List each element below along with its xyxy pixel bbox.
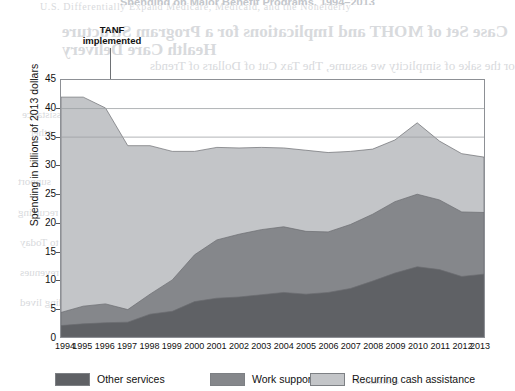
y-axis-tick-20: 20	[34, 217, 56, 228]
y-axis-tick-15: 15	[34, 246, 56, 257]
y-axis-tick-mark-30	[56, 165, 60, 166]
y-axis-tick-35: 35	[34, 131, 56, 142]
y-axis-tick-mark-40	[56, 108, 60, 109]
x-axis-tick-2006: 2006	[316, 341, 340, 351]
x-axis-tick-2011: 2011	[428, 341, 452, 351]
legend-swatch-icon	[310, 373, 345, 386]
area-series-canvas	[61, 80, 484, 337]
x-axis-tick-labels: 1994199519961997199819992000200120022003…	[0, 341, 495, 355]
x-axis-tick-1995: 1995	[70, 341, 94, 351]
x-axis-tick-2002: 2002	[227, 341, 251, 351]
tanf-annotation: TANF implemented	[60, 24, 164, 46]
legend-swatch-icon	[55, 373, 90, 386]
x-axis-tick-2004: 2004	[272, 341, 296, 351]
legend-label: Work support	[252, 373, 314, 385]
y-axis-tick-mark-5	[56, 309, 60, 310]
chart-legend: Other servicesWork supportRecurring cash…	[0, 370, 495, 388]
legend-item-other-services[interactable]: Other services	[55, 373, 165, 386]
x-axis-tick-2013: 2013	[468, 341, 492, 351]
x-axis-tick-2000: 2000	[182, 341, 206, 351]
tanf-annotation-line2: implemented	[60, 35, 164, 46]
legend-item-recurring-cash-assistance[interactable]: Recurring cash assistance	[310, 373, 475, 386]
legend-item-work-support[interactable]: Work support	[210, 373, 314, 386]
x-axis-tick-2001: 2001	[205, 341, 229, 351]
y-axis-tick-45: 45	[34, 73, 56, 84]
tanf-annotation-line1: TANF	[60, 24, 164, 35]
x-axis-tick-2010: 2010	[406, 341, 430, 351]
y-axis-tick-mark-10	[56, 280, 60, 281]
x-axis-tick-2007: 2007	[339, 341, 363, 351]
legend-label: Recurring cash assistance	[352, 373, 475, 385]
legend-swatch-icon	[210, 373, 245, 386]
x-axis-tick-1996: 1996	[93, 341, 117, 351]
y-axis-tick-mark-20	[56, 223, 60, 224]
legend-label: Other services	[97, 373, 165, 385]
y-axis-tick-mark-35	[56, 137, 60, 138]
y-axis-tick-5: 5	[34, 303, 56, 314]
x-axis-tick-2009: 2009	[384, 341, 408, 351]
x-axis-tick-2003: 2003	[249, 341, 273, 351]
x-axis-tick-2008: 2008	[361, 341, 385, 351]
x-axis-tick-1999: 1999	[160, 341, 184, 351]
y-axis-tick-mark-15	[56, 252, 60, 253]
y-axis-tick-30: 30	[34, 159, 56, 170]
y-axis-tick-25: 25	[34, 188, 56, 199]
x-axis-tick-1997: 1997	[115, 341, 139, 351]
x-axis-tick-1998: 1998	[137, 341, 161, 351]
y-axis-tick-40: 40	[34, 102, 56, 113]
y-axis-tick-labels: 051015202530354045	[28, 0, 56, 391]
plot-area	[60, 79, 485, 338]
y-axis-tick-mark-25	[56, 194, 60, 195]
y-axis-tick-10: 10	[34, 274, 56, 285]
x-axis-tick-2005: 2005	[294, 341, 318, 351]
